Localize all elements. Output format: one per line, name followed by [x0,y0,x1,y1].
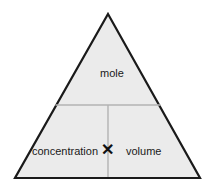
triangle-graphic [0,0,214,191]
multiply-symbol-icon: ✕ [101,142,114,158]
cell-label-mole: mole [0,67,214,79]
cell-label-concentration: concentration [32,145,98,157]
formula-triangle-diagram: mole concentration ✕ volume [0,0,214,191]
cell-label-volume: volume [126,145,161,157]
